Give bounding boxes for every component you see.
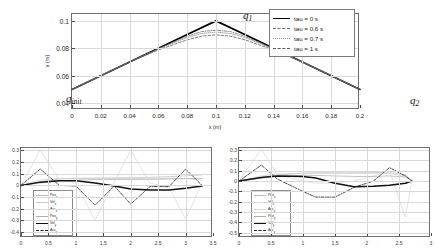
y-tick: [239, 202, 242, 203]
legend-label: Posy: [50, 214, 57, 220]
x-tick: [302, 105, 303, 108]
gridline-horizontal: [21, 232, 211, 233]
y-tick: [239, 181, 242, 182]
y-tick: [72, 76, 75, 77]
y-tick-label: -0.1: [2, 194, 19, 200]
y-tick: [239, 233, 242, 234]
gridline-vertical: [130, 14, 131, 108]
legend-swatch: [36, 200, 48, 206]
y-tick: [72, 21, 75, 22]
main-plot-legend[interactable]: tau = 0 stau = 0.6 stau = 0.7 stau = 1 s: [269, 9, 355, 57]
y-tick: [21, 197, 24, 198]
x-tick-label: 3: [184, 240, 187, 246]
x-tick-label: 1.5: [100, 240, 107, 246]
y-tick-label: -0.1: [220, 188, 237, 194]
x-tick-label: 1.5: [332, 240, 339, 246]
x-tick: [76, 233, 77, 236]
x-tick-label: 0.16: [296, 112, 308, 119]
gridline-horizontal: [239, 150, 429, 151]
y-tick-label: 0.1: [42, 17, 69, 24]
x-tick-label: 2: [129, 240, 132, 246]
y-tick: [72, 48, 75, 49]
x-tick-label: 0.06: [152, 112, 164, 119]
legend-label: tau = 0 s: [294, 15, 318, 22]
x-tick: [103, 233, 104, 236]
legend-swatch: [272, 44, 291, 52]
x-tick: [274, 105, 275, 108]
x-tick-label: 0.5: [45, 240, 52, 246]
legend-swatch: [36, 214, 48, 220]
x-tick: [216, 105, 217, 108]
x-tick-label: 0.12: [239, 112, 251, 119]
legend-item[interactable]: tau = 1 s: [272, 43, 351, 53]
x-tick: [158, 233, 159, 236]
gridline-horizontal: [21, 197, 211, 198]
right-profile-axes: PosxVelxAccxPosyVelyAccy 00.511.522.530.…: [238, 147, 430, 237]
x-tick-label: 1: [302, 240, 305, 246]
gridline-horizontal: [72, 103, 358, 104]
x-tick-label: 0.04: [124, 112, 136, 119]
y-tick-label: -0.5: [220, 230, 237, 236]
x-tick: [101, 105, 102, 108]
gridline-horizontal: [21, 185, 211, 186]
figure-canvas: 00.020.040.060.080.10.120.140.160.180.20…: [0, 0, 439, 251]
y-tick-label: 0.2: [220, 157, 237, 163]
annotation-q-one: q1: [243, 9, 252, 23]
legend-item[interactable]: tau = 0.6 s: [272, 23, 351, 33]
annotation-q-two: q2: [410, 94, 419, 108]
x-tick-label: 2.5: [155, 240, 162, 246]
y-tick-label: 0.1: [2, 171, 19, 177]
y-tick-label: -0.2: [220, 199, 237, 205]
x-tick-label: 0.14: [268, 112, 280, 119]
x-tick-label: 0.2: [356, 112, 365, 119]
y-tick-label: 0: [220, 178, 237, 184]
x-tick: [131, 233, 132, 236]
y-tick-label: 0.1: [220, 168, 237, 174]
left-profile-axes: PosxVelxAccxPosyVelyAccy 00.511.522.533.…: [20, 147, 212, 237]
y-tick-label: 0.06: [42, 72, 69, 79]
gridline-horizontal: [239, 222, 429, 223]
x-tick-label: 0.18: [325, 112, 337, 119]
legend-item[interactable]: Posy: [36, 213, 70, 220]
legend-swatch: [254, 221, 266, 227]
gridline-horizontal: [239, 212, 429, 213]
y-tick-label: 0: [2, 182, 19, 188]
gridline-horizontal: [239, 181, 429, 182]
gridline-vertical: [158, 14, 159, 108]
x-tick: [48, 233, 49, 236]
y-tick: [21, 209, 24, 210]
legend-label: tau = 1 s: [294, 45, 318, 52]
x-tick-label: 1: [74, 240, 77, 246]
x-tick: [431, 233, 432, 236]
legend-item[interactable]: tau = 0 s: [272, 13, 351, 23]
annotation-q-init: qinit: [66, 92, 81, 106]
y-tick-label: 0.08: [42, 45, 69, 52]
y-tick-label: -0.4: [2, 229, 19, 235]
x-tick: [213, 233, 214, 236]
gridline-horizontal: [239, 171, 429, 172]
gridline-vertical: [245, 14, 246, 108]
main-yaxis-label: y (m): [44, 55, 50, 68]
legend-label: tau = 0.7 s: [294, 35, 323, 42]
legend-label: Velx: [50, 200, 56, 206]
x-tick: [186, 233, 187, 236]
y-tick-label: 0.2: [2, 159, 19, 165]
y-tick-label: 0.3: [2, 147, 19, 153]
y-tick-label: -0.3: [220, 209, 237, 215]
x-tick-label: 0.08: [181, 112, 193, 119]
x-tick: [130, 105, 131, 108]
legend-label: Vely: [50, 221, 56, 227]
x-tick-label: 0.1: [212, 112, 221, 119]
y-tick: [21, 162, 24, 163]
x-tick: [331, 105, 332, 108]
x-tick-label: 0: [238, 240, 241, 246]
legend-item[interactable]: tau = 0.7 s: [272, 33, 351, 43]
legend-swatch: [272, 14, 291, 22]
x-tick: [158, 105, 159, 108]
y-tick: [239, 222, 242, 223]
legend-item[interactable]: Velx: [36, 199, 70, 206]
y-tick-label: 0.04: [42, 100, 69, 107]
y-tick: [239, 191, 242, 192]
y-tick-label: -0.3: [2, 217, 19, 223]
gridline-horizontal: [21, 220, 211, 221]
